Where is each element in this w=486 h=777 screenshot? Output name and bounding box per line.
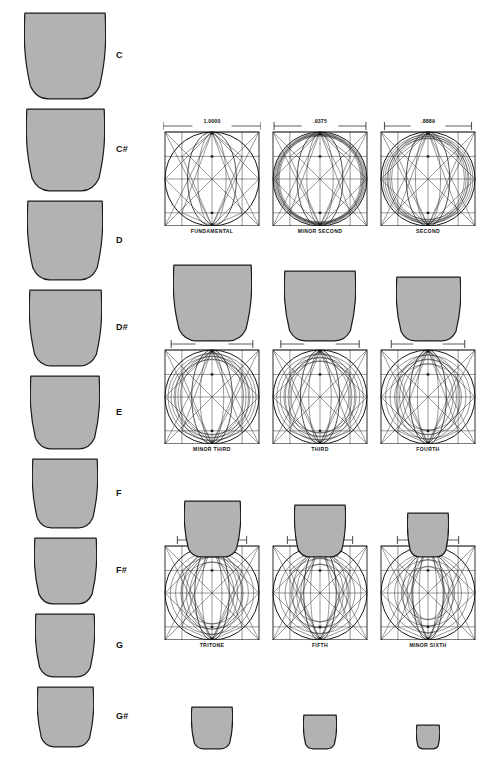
dimension-label: 1.0000 — [163, 118, 261, 124]
note-label: G — [116, 640, 123, 650]
bowl-icon — [294, 504, 346, 558]
bowl-shape — [30, 375, 100, 454]
panel-caption: SECOND — [379, 228, 477, 234]
dimension-label: .9375 — [271, 118, 369, 124]
panel-caption: TRITONE — [163, 642, 261, 648]
note-label: G# — [116, 711, 128, 721]
panel-caption: MINOR SIXTH — [379, 642, 477, 648]
note-label: F# — [116, 565, 127, 575]
note-label: C# — [116, 144, 128, 154]
bowl-icon — [34, 537, 97, 605]
construction-drawing — [379, 130, 477, 226]
panel-caption: FOURTH — [379, 446, 477, 452]
bowl-shape — [303, 714, 337, 754]
note-row-Gsharp: G# — [24, 686, 144, 748]
note-label: D — [116, 235, 123, 245]
note-label: F — [116, 488, 122, 498]
panel-caption: FIFTH — [271, 642, 369, 648]
geometry-panel-minor-third: .8333MINOR THIRD — [163, 336, 261, 458]
geometry-panel-minor-second: .9375MINOR SECOND — [271, 118, 369, 240]
geometry-panel-fundamental: 1.0000FUNDAMENTAL — [163, 118, 261, 240]
bowl-shape — [396, 276, 461, 346]
construction-drawing — [163, 348, 261, 444]
note-label: D# — [116, 322, 128, 332]
bowl-icon — [26, 108, 105, 192]
note-row-Fsharp: F# — [24, 537, 144, 605]
note-row-Csharp: C# — [24, 108, 144, 192]
bowl-shape — [29, 289, 102, 371]
bowl-shape — [416, 724, 440, 754]
bowl-shape — [294, 504, 346, 562]
bowl-shape — [32, 458, 98, 533]
bowl-shape — [191, 706, 233, 754]
bowl-shape — [284, 270, 356, 346]
panel-caption: MINOR THIRD — [163, 446, 261, 452]
bowl-icon — [173, 264, 252, 342]
panel-caption: FUNDAMENTAL — [163, 228, 261, 234]
bowl-shape — [407, 512, 449, 562]
bowl-icon — [396, 276, 461, 342]
geometry-panel-third: .8000THIRD — [271, 336, 369, 458]
bowl-icon — [407, 512, 449, 558]
geometry-panel-second: .8889SECOND — [379, 118, 477, 240]
bowl-icon — [27, 200, 103, 281]
bowl-icon — [24, 12, 106, 100]
construction-drawing — [379, 348, 477, 444]
figure-canvas: CC#DD#EFF#GG#1.0000FUNDAMENTAL.9375MINOR… — [0, 0, 486, 777]
bowl-shape — [34, 537, 97, 609]
construction-drawing — [271, 130, 369, 226]
note-label: E — [116, 407, 122, 417]
bowl-icon — [284, 270, 356, 342]
panel-caption: MINOR SECOND — [271, 228, 369, 234]
note-row-D: D — [24, 200, 144, 281]
note-row-F: F — [24, 458, 144, 529]
bowl-icon — [303, 714, 337, 750]
bowl-icon — [35, 613, 95, 678]
bowl-shape — [27, 200, 103, 285]
note-row-E: E — [24, 375, 144, 450]
bowl-shape — [26, 108, 105, 196]
bowl-shape — [173, 264, 252, 346]
bowl-icon — [30, 375, 100, 450]
bowl-shape — [24, 12, 106, 104]
note-row-Dsharp: D# — [24, 289, 144, 367]
bowl-icon — [29, 289, 102, 367]
bowl-shape — [35, 613, 95, 682]
geometry-panel-fourth: .7500FOURTH — [379, 336, 477, 458]
bowl-shape — [184, 500, 241, 562]
bowl-icon — [37, 686, 94, 748]
note-label: C — [116, 50, 123, 60]
panel-caption: THIRD — [271, 446, 369, 452]
dimension-label: .8889 — [379, 118, 477, 124]
bowl-icon — [191, 706, 233, 750]
bowl-icon — [416, 724, 440, 750]
construction-drawing — [271, 348, 369, 444]
bowl-icon — [32, 458, 98, 529]
bowl-icon — [184, 500, 241, 558]
note-row-G: G — [24, 613, 144, 678]
bowl-shape — [37, 686, 94, 752]
note-row-C: C — [24, 12, 144, 100]
construction-drawing — [163, 130, 261, 226]
